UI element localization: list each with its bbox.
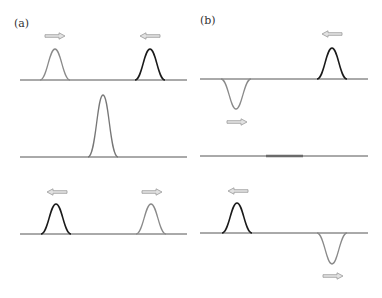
pulse-dark-up bbox=[222, 203, 252, 233]
arrow-right-icon bbox=[142, 189, 162, 195]
panel-b-row-1 bbox=[200, 31, 368, 125]
pulse-light-up bbox=[136, 204, 166, 234]
pulse-light-up bbox=[40, 49, 70, 80]
arrow-right-icon bbox=[323, 273, 343, 279]
panel-a-row-2 bbox=[20, 95, 187, 157]
panel-b-row-3 bbox=[200, 188, 368, 279]
pulse-light-inverted bbox=[221, 79, 251, 109]
pulse-superposed-tall bbox=[88, 95, 118, 157]
panel-a-row-1 bbox=[20, 33, 187, 80]
arrow-left-icon bbox=[322, 31, 342, 37]
arrow-left-icon bbox=[140, 33, 160, 39]
arrow-right-icon bbox=[227, 119, 247, 125]
arrow-right-icon bbox=[45, 33, 65, 39]
panel-a-label: (a) bbox=[14, 17, 29, 30]
pulse-dark-up bbox=[135, 49, 165, 80]
pulse-superposition-figure: (a) (b) bbox=[0, 0, 382, 298]
arrow-left-icon bbox=[47, 189, 67, 195]
panel-b-label: (b) bbox=[200, 14, 216, 27]
panel-a-row-3 bbox=[20, 189, 187, 234]
pulse-dark-up bbox=[317, 48, 347, 79]
figure-canvas: (a) (b) bbox=[0, 0, 382, 298]
pulse-light-inverted bbox=[317, 233, 347, 264]
pulse-dark-up bbox=[41, 204, 71, 234]
arrow-left-icon bbox=[228, 188, 248, 194]
